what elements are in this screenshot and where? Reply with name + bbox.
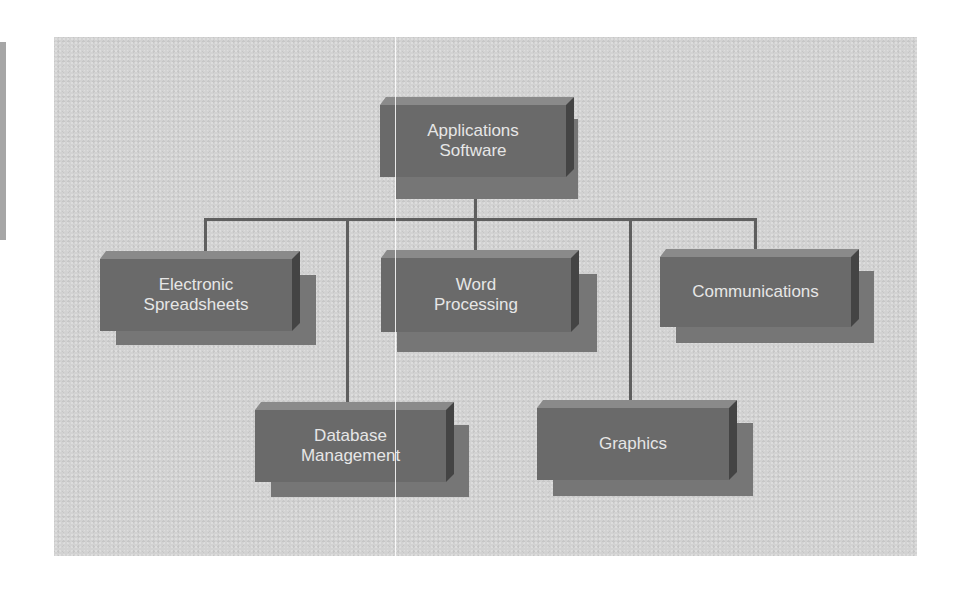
node-label-line2: Software: [439, 141, 506, 161]
page-edge-strip: [0, 42, 6, 240]
connector-to-word-processing: [474, 218, 477, 254]
node-label-line2: Processing: [434, 295, 518, 315]
node-label-line1: Applications: [427, 121, 519, 141]
node-label-line1: Communications: [692, 282, 819, 302]
connector-to-spreadsheets: [204, 218, 207, 254]
node-label-line1: Graphics: [599, 434, 667, 454]
connector-to-graphics: [629, 218, 632, 404]
node-label-line1: Electronic: [159, 275, 234, 295]
node-label-line2: Spreadsheets: [144, 295, 249, 315]
connector-horizontal-bus: [204, 218, 757, 221]
connector-to-database: [346, 218, 349, 404]
node-label-line1: Word: [456, 275, 496, 295]
scan-artifact-line: [395, 37, 396, 556]
node-label-line1: Database: [314, 426, 387, 446]
connector-to-communications: [754, 218, 757, 254]
node-label-line2: Management: [301, 446, 400, 466]
